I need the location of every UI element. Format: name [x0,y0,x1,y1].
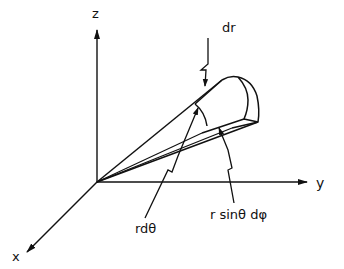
r-dtheta-leader [145,108,198,218]
r-dtheta-label: rdθ [135,222,156,235]
diagram-svg [0,0,344,269]
dr-label: dr [222,21,236,34]
r-sintheta-dphi-label: r sinθ dφ [210,208,267,221]
x-axis-label: x [12,250,20,263]
spherical-volume-element-diagram: z y x dr rdθ r sinθ dφ [0,0,344,269]
z-axis-label: z [92,7,99,20]
r-sintheta-dphi-leader [219,128,234,203]
x-axis [27,182,97,252]
dr-leader [201,38,208,86]
y-axis-label: y [316,176,324,190]
volume-element-cone [97,76,259,182]
